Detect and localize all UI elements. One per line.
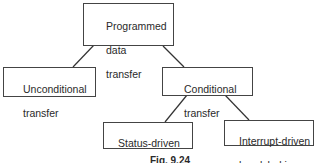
node-label-line: Programmed bbox=[106, 20, 173, 32]
node-programmed-data-transfer: Programmed data transfer bbox=[83, 3, 174, 46]
figure-caption: Fig. 9.24 bbox=[150, 155, 190, 163]
node-label-line: Conditional bbox=[184, 83, 252, 95]
node-label-line: data bbox=[106, 44, 173, 56]
node-conditional-transfer: Conditional transfer bbox=[162, 67, 253, 96]
node-label-line: transfer bbox=[184, 107, 252, 119]
node-label-line: transfer bbox=[23, 107, 95, 119]
node-unconditional-transfer: Unconditional transfer bbox=[3, 67, 96, 97]
node-status-driven-handshaking: Status-driven handshaking bbox=[103, 122, 193, 149]
node-label-line: Unconditional bbox=[23, 83, 95, 95]
edge-root-to-unconditional bbox=[73, 45, 94, 67]
node-label-line: handshaking bbox=[239, 159, 313, 163]
node-label-line: Status-driven bbox=[118, 137, 192, 149]
node-interrupt-driven-handshaking: Interrupt-driven handshaking bbox=[224, 120, 314, 146]
node-label-line: Interrupt-driven bbox=[239, 135, 313, 147]
